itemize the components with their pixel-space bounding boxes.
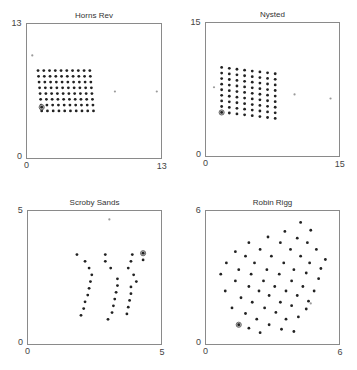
scatter-points bbox=[0, 0, 357, 370]
